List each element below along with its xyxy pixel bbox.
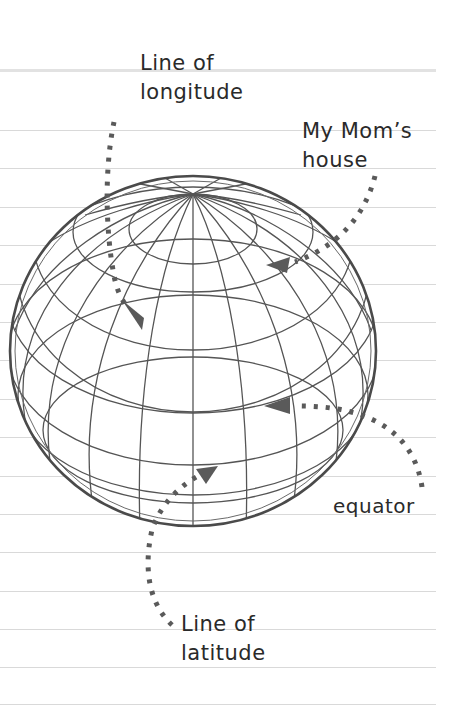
label-equator: equator bbox=[333, 492, 415, 521]
label-line: house bbox=[302, 146, 412, 175]
label-line: longitude bbox=[140, 78, 243, 107]
label-line-of-latitude: Line of latitude bbox=[181, 610, 266, 668]
label-line: Line of bbox=[181, 610, 266, 639]
label-line: My Mom’s bbox=[302, 117, 412, 146]
label-my-moms-house: My Mom’s house bbox=[302, 117, 412, 175]
label-line: latitude bbox=[181, 639, 266, 668]
label-line: Line of bbox=[140, 49, 243, 78]
label-line-of-longitude: Line of longitude bbox=[140, 49, 243, 107]
label-line: equator bbox=[333, 492, 415, 521]
notebook-page: Line of longitude My Mom’s house equator… bbox=[0, 0, 464, 705]
